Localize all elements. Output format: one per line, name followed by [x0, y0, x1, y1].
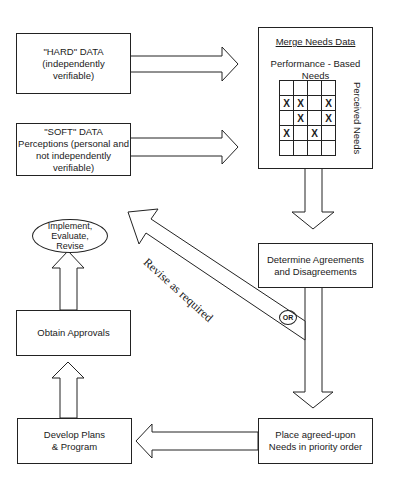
matrix-cell: X [322, 96, 336, 111]
hard-data-title: "HARD" DATA [43, 46, 103, 58]
arrow-place-to-develop [136, 424, 258, 458]
matrix-row: XX [280, 111, 336, 126]
matrix-row [280, 141, 336, 156]
needs-matrix: XXX XX XX [279, 80, 336, 156]
matrix-cell [280, 141, 294, 156]
matrix-cell [322, 81, 336, 96]
matrix-cell [308, 96, 322, 111]
develop-box: Develop Plans & Program [17, 418, 132, 464]
soft-data-text: verifiable) [53, 162, 94, 174]
perceived-needs-label: Perceived Needs [352, 82, 363, 154]
arrow-develop-to-approvals [52, 362, 84, 418]
arrow-merge-to-determine [292, 168, 334, 229]
determine-text: and Disagreements [274, 266, 356, 278]
matrix-cell: X [280, 96, 294, 111]
soft-data-box: "SOFT" DATA Perceptions (personal and no… [16, 123, 131, 176]
matrix-cell [322, 126, 336, 141]
hard-data-text: (independently [42, 58, 104, 70]
performance-label: Performance - Based [271, 58, 361, 70]
hard-data-box: "HARD" DATA (independently verifiable) [16, 33, 131, 94]
determine-box: Determine Agreements and Disagreements [258, 243, 373, 288]
matrix-cell: X [308, 126, 322, 141]
place-text: Needs in priority order [269, 441, 362, 453]
merge-title: Merge Needs Data [276, 36, 356, 48]
matrix-cell: X [280, 126, 294, 141]
arrow-soft-to-merge [130, 130, 238, 164]
determine-text: Determine Agreements [267, 254, 364, 266]
implement-text: Evaluate, [51, 231, 89, 241]
matrix-row: XX [280, 126, 336, 141]
arrow-approvals-to-implement [52, 251, 84, 310]
approvals-box: Obtain Approvals [16, 310, 131, 356]
soft-data-text: Perceptions (personal and [18, 138, 129, 150]
approvals-text: Obtain Approvals [37, 327, 109, 339]
matrix-cell [294, 126, 308, 141]
implement-text: Revise [56, 241, 84, 251]
place-box: Place agreed-upon Needs in priority orde… [258, 418, 373, 464]
implement-ellipse: Implement, Evaluate, Revise [32, 219, 108, 253]
matrix-row [280, 81, 336, 96]
develop-text: & Program [52, 441, 97, 453]
or-badge: OR [279, 310, 297, 325]
matrix-cell [294, 81, 308, 96]
place-text: Place agreed-upon [275, 429, 355, 441]
implement-text: Implement, [48, 221, 93, 231]
soft-data-text: not independently [36, 150, 111, 162]
matrix-cell: X [322, 111, 336, 126]
matrix-cell [322, 141, 336, 156]
matrix-cell: X [294, 96, 308, 111]
matrix-cell [280, 111, 294, 126]
soft-data-title: "SOFT" DATA [44, 126, 103, 138]
develop-text: Develop Plans [44, 429, 105, 441]
matrix-cell [308, 111, 322, 126]
hard-data-text: verifiable) [53, 70, 94, 82]
arrow-hard-to-merge [130, 47, 238, 81]
matrix-row: XXX [280, 96, 336, 111]
matrix-cell [280, 81, 294, 96]
matrix-cell [308, 141, 322, 156]
matrix-cell [308, 81, 322, 96]
matrix-cell [294, 141, 308, 156]
arrow-determine-to-place [293, 287, 333, 408]
matrix-cell: X [294, 111, 308, 126]
